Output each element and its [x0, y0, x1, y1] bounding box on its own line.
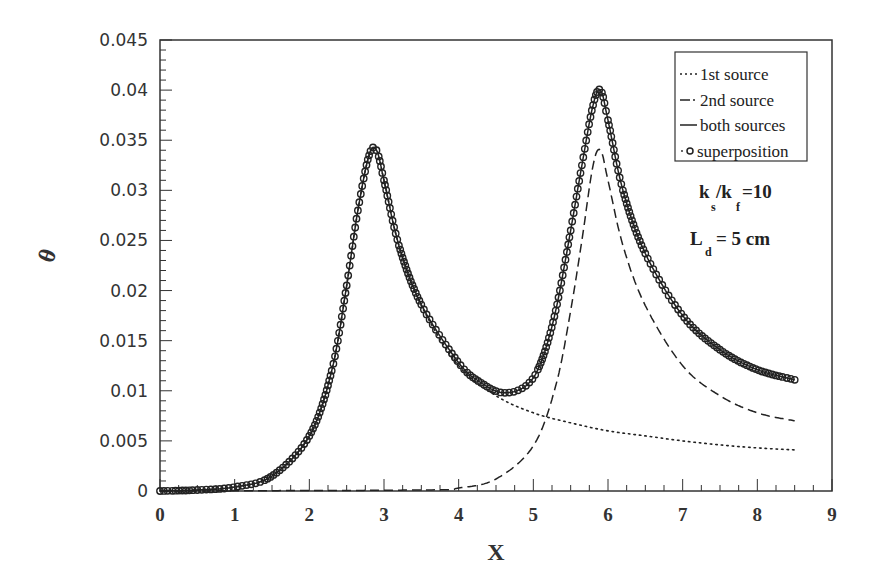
svg-text:d: d: [705, 245, 712, 259]
x-tick-label: 1: [230, 504, 240, 525]
x-tick-label: 0: [155, 504, 165, 525]
y-axis-ticks: [160, 40, 172, 491]
x-tick-label: 6: [603, 504, 613, 525]
annotation-conductivity-ratio: k s /k f =10: [699, 181, 772, 214]
y-axis-tick-labels: 00.0050.010.0150.020.0250.030.0350.040.0…: [99, 30, 148, 501]
legend: 1st source 2nd source both sources super…: [675, 52, 807, 161]
x-tick-label: 3: [379, 504, 389, 525]
y-tick-label: 0.01: [110, 381, 148, 401]
y-tick-label: 0: [137, 481, 148, 501]
svg-text:k: k: [699, 181, 710, 202]
y-axis-title: θ: [33, 245, 62, 266]
svg-text:L: L: [690, 228, 703, 249]
y-tick-label: 0.035: [99, 130, 148, 150]
y-tick-label: 0.045: [99, 30, 148, 50]
x-tick-label: 4: [454, 504, 464, 525]
svg-text:f: f: [736, 200, 741, 214]
x-tick-label: 2: [305, 504, 315, 525]
legend-label: both sources: [700, 116, 785, 135]
x-tick-label: 7: [678, 504, 688, 525]
x-axis-tick-labels: 0123456789: [155, 504, 837, 525]
x-tick-label: 8: [753, 504, 763, 525]
svg-text:= 5 cm: = 5 cm: [716, 228, 770, 249]
x-tick-label: 5: [529, 504, 539, 525]
x-tick-label: 9: [827, 504, 837, 525]
svg-text:s: s: [711, 200, 716, 214]
y-tick-label: 0.005: [99, 431, 148, 451]
y-tick-label: 0.015: [99, 331, 148, 351]
y-tick-label: 0.03: [110, 180, 148, 200]
legend-label: superposition: [697, 142, 789, 161]
y-tick-label: 0.02: [110, 281, 148, 301]
svg-text:/k: /k: [715, 181, 732, 202]
legend-label: 1st source: [700, 65, 768, 84]
x-axis-title: X: [487, 539, 505, 565]
legend-item-superposition: superposition: [681, 142, 789, 161]
legend-label: 2nd source: [700, 91, 774, 110]
chart: 00.0050.010.0150.020.0250.030.0350.040.0…: [0, 0, 878, 583]
y-tick-label: 0.025: [99, 230, 148, 250]
svg-text:=10: =10: [742, 181, 772, 202]
annotation-ld: L d = 5 cm: [690, 228, 770, 259]
y-tick-label: 0.04: [110, 80, 148, 100]
